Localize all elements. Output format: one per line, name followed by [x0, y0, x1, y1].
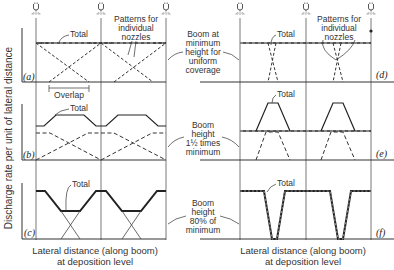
patterns-label-line3: nozzles — [122, 32, 151, 42]
y-axis-label: Discharge rate per unit of lateral dista… — [3, 46, 14, 229]
total-label: Total — [277, 89, 295, 99]
axis — [22, 104, 166, 160]
spray-nozzle-icon — [302, 3, 311, 16]
spray-nozzle-icon — [367, 3, 376, 16]
annotation-minimum: Boom at minimum height for uniform cover… — [168, 29, 239, 75]
panel-label: (d) — [376, 69, 388, 81]
overlap-label: Overlap — [54, 90, 84, 100]
patterns-label-line3: nozzles — [325, 32, 354, 42]
x-axis-label-left-line2: at deposition level — [57, 256, 133, 267]
total-line — [256, 103, 290, 131]
spray-nozzle-icon — [32, 3, 41, 16]
panel-c: Total (c) — [22, 179, 166, 239]
individual-patterns — [268, 43, 343, 82]
svg-text:minimum: minimum — [186, 225, 220, 235]
panel-f: Total (f) — [200, 178, 394, 239]
panel-label: (f) — [376, 227, 386, 239]
right-column: Total Patterns for individual nozzles (d… — [200, 3, 394, 268]
x-axis-label-right-line1: Lateral distance (along boom) — [240, 245, 366, 256]
panel-a: Total Patterns for individual nozzles (a… — [22, 14, 166, 100]
individual-patterns — [256, 132, 355, 160]
total-label: Total — [72, 179, 90, 189]
spray-nozzle-icon — [236, 3, 245, 16]
left-column: Total Patterns for individual nozzles (a… — [22, 3, 171, 268]
spray-nozzle-icon — [97, 3, 106, 16]
panel-label: (c) — [24, 227, 36, 239]
total-label: Total — [70, 29, 88, 39]
x-axis-label-right-line2: at deposition level — [265, 256, 341, 267]
total-line — [240, 191, 371, 239]
annotation-1-5-times: Boom height 1½ times minimum — [168, 120, 239, 157]
panel-d: Total Patterns for individual nozzles (d… — [200, 14, 394, 82]
annotation-80-percent: Boom height 80% of minimum — [168, 198, 239, 235]
total-label: Total — [277, 29, 295, 39]
total-label: Total — [70, 103, 88, 113]
center-annotations: Boom at minimum height for uniform cover… — [168, 29, 239, 235]
total-line — [321, 103, 355, 131]
total-label: Total — [277, 178, 295, 188]
x-axis-label-left-line1: Lateral distance (along boom) — [32, 245, 158, 256]
panel-b: Total (b) — [22, 103, 166, 161]
panel-label: (a) — [23, 71, 35, 83]
svg-text:coverage: coverage — [186, 65, 221, 75]
panel-label: (b) — [23, 149, 35, 161]
panel-e: Total (e) — [200, 89, 394, 160]
svg-text:minimum: minimum — [186, 147, 220, 157]
spray-nozzle-icon — [162, 3, 171, 16]
panel-label: (e) — [376, 148, 388, 160]
spray-pattern-diagram: Discharge rate per unit of lateral dista… — [0, 0, 394, 270]
